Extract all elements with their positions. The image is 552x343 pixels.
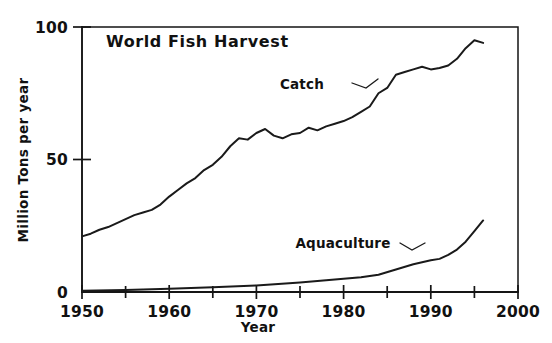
x-tick-label-1990: 1990 [409,303,453,321]
world-fish-harvest-chart: 050100 195019601970198019902000 World Fi… [0,0,552,343]
chart-canvas: 050100 195019601970198019902000 World Fi… [0,0,552,343]
x-tick-label-1980: 1980 [322,303,366,321]
x-tick-label-1950: 1950 [60,303,104,321]
y-tick-label-100: 100 [35,19,68,37]
y-tick-label-50: 50 [46,151,68,169]
catch-leader-line [352,79,378,88]
y-axis-label: Million Tons per year [15,78,31,243]
x-axis-label: Year [240,319,276,335]
series-label-catch: Catch [280,76,324,92]
series-line-aquaculture [82,220,483,290]
x-axis-tick-labels: 195019601970198019902000 [60,303,540,321]
series-line-catch [82,40,483,236]
x-tick-label-2000: 2000 [496,303,540,321]
annotation-leaders [352,79,425,250]
series-label-aquaculture: Aquaculture [295,235,390,251]
chart-title: World Fish Harvest [106,32,289,51]
y-axis-tick-labels: 050100 [35,19,68,302]
x-tick-label-1960: 1960 [147,303,191,321]
aquaculture-leader-line [400,243,425,250]
y-tick-label-0: 0 [57,284,68,302]
